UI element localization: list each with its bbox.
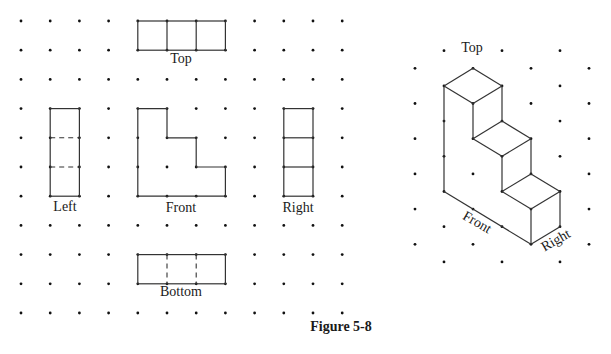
iso-grid-dot xyxy=(588,208,591,211)
grid-dot xyxy=(341,195,344,198)
iso-grid-dot xyxy=(414,137,417,140)
grid-dot xyxy=(49,312,52,315)
iso-grid-dot xyxy=(559,85,562,88)
front-view-outline xyxy=(138,109,226,197)
iso-right-label: Right xyxy=(539,226,574,255)
solid-edge xyxy=(473,121,502,139)
grid-dot xyxy=(107,20,110,23)
iso-grid-dot xyxy=(414,243,417,246)
grid-dot xyxy=(341,20,344,23)
grid-dot xyxy=(20,253,23,256)
left-view xyxy=(50,109,79,197)
grid-dot xyxy=(20,282,23,285)
iso-grid-dot xyxy=(588,173,591,176)
grid-dot xyxy=(20,107,23,110)
iso-grid-dot xyxy=(588,67,591,70)
grid-dot xyxy=(20,166,23,169)
solid-edge xyxy=(444,68,473,86)
grid-dot xyxy=(253,49,256,52)
iso-grid-dot xyxy=(414,208,417,211)
grid-dot xyxy=(224,312,227,315)
grid-dot xyxy=(195,78,198,81)
iso-grid-dot xyxy=(530,102,533,105)
iso-grid-dot xyxy=(530,67,533,70)
iso-grid-dot xyxy=(443,261,446,264)
grid-dot xyxy=(312,78,315,81)
grid-dot xyxy=(78,253,81,256)
iso-grid-dot xyxy=(472,173,475,176)
grid-dot xyxy=(312,312,315,315)
grid-dot xyxy=(341,282,344,285)
iso-grid-dot xyxy=(588,137,591,140)
grid-dot xyxy=(224,107,227,110)
grid-dot xyxy=(312,253,315,256)
top-view xyxy=(138,21,226,50)
grid-dot xyxy=(341,49,344,52)
solid-edge xyxy=(473,86,502,104)
grid-dot xyxy=(78,282,81,285)
grid-dot xyxy=(253,224,256,227)
iso-grid-dot xyxy=(501,49,504,52)
iso-grid-dot xyxy=(414,102,417,105)
iso-grid-dot xyxy=(559,155,562,158)
grid-dot xyxy=(224,224,227,227)
grid-dot xyxy=(107,312,110,315)
grid-dot xyxy=(253,282,256,285)
grid-dot xyxy=(253,195,256,198)
grid-dot xyxy=(136,224,139,227)
iso-grid-dot xyxy=(559,261,562,264)
grid-dot xyxy=(166,312,169,315)
grid-dot xyxy=(253,312,256,315)
solid-edge xyxy=(444,192,531,245)
grid-dot xyxy=(49,49,52,52)
bottom-view xyxy=(138,255,226,284)
solid-edge xyxy=(531,174,560,192)
solid-edge xyxy=(444,86,473,104)
grid-dot xyxy=(341,253,344,256)
grid-dot xyxy=(224,78,227,81)
grid-dot xyxy=(136,312,139,315)
grid-dot xyxy=(253,20,256,23)
solid-edge xyxy=(473,139,502,157)
grid-dot xyxy=(195,224,198,227)
grid-dot xyxy=(49,78,52,81)
figure-5-8: Top Left Right Bottom Front Top Front Ri… xyxy=(0,0,611,354)
grid-dot xyxy=(312,20,315,23)
grid-dot xyxy=(253,166,256,169)
left-view-outline xyxy=(50,109,79,197)
left-view-label: Left xyxy=(53,199,76,214)
grid-dot xyxy=(312,224,315,227)
grid-dot xyxy=(107,224,110,227)
grid-dot xyxy=(282,224,285,227)
grid-dot xyxy=(107,195,110,198)
grid-dot xyxy=(49,253,52,256)
grid-dot xyxy=(107,78,110,81)
grid-dot xyxy=(282,49,285,52)
iso-grid-dot xyxy=(414,173,417,176)
grid-dot xyxy=(341,224,344,227)
iso-grid-dot xyxy=(443,225,446,228)
grid-dot xyxy=(341,107,344,110)
grid-dot xyxy=(253,78,256,81)
solid-edge xyxy=(473,68,502,86)
grid-dot xyxy=(282,20,285,23)
bottom-view-label: Bottom xyxy=(160,284,202,299)
right-view-label: Right xyxy=(282,200,313,215)
grid-dot xyxy=(20,78,23,81)
grid-dot xyxy=(20,312,23,315)
iso-top-label: Top xyxy=(461,40,483,55)
grid-dot xyxy=(107,107,110,110)
grid-dot xyxy=(20,195,23,198)
top-view-outline xyxy=(138,21,226,50)
grid-dot xyxy=(341,166,344,169)
front-view-label: Front xyxy=(166,200,196,215)
grid-dot xyxy=(78,49,81,52)
grid-dot xyxy=(341,78,344,81)
grid-dot xyxy=(20,136,23,139)
grid-dot xyxy=(282,312,285,315)
grid-dot xyxy=(312,282,315,285)
grid-dot xyxy=(224,136,227,139)
grid-dot xyxy=(78,20,81,23)
solid-edge xyxy=(502,139,531,157)
right-view-outline xyxy=(284,109,313,197)
